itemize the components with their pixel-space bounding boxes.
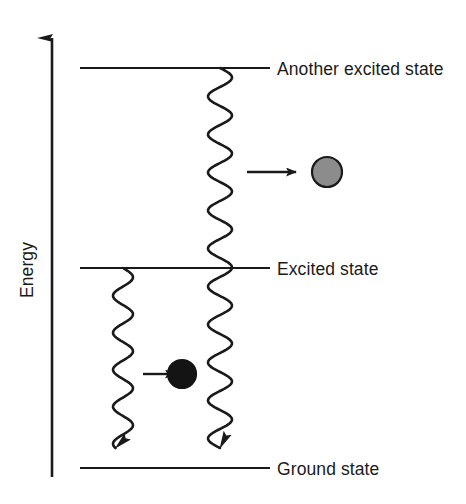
transition-long-wavy: [208, 68, 232, 448]
level-another-excited-state: Another excited state: [80, 59, 444, 79]
energy-axis: Energy: [17, 38, 52, 477]
energy-level-diagram: Energy Another excited state Excited sta…: [0, 0, 466, 504]
transition-short-wavy: [113, 268, 133, 448]
energy-axis-label: Energy: [17, 242, 37, 298]
wavy-arrow-short: [113, 268, 133, 448]
diagram-canvas: Energy Another excited state Excited sta…: [0, 0, 466, 504]
level-label-excited-state: Excited state: [277, 259, 379, 279]
level-label-ground-state: Ground state: [277, 459, 379, 479]
black-particle: [168, 360, 196, 388]
level-ground-state: Ground state: [80, 459, 379, 479]
grey-particle: [312, 157, 342, 187]
level-label-another-excited-state: Another excited state: [277, 59, 444, 79]
wavy-arrow-long: [208, 68, 232, 448]
